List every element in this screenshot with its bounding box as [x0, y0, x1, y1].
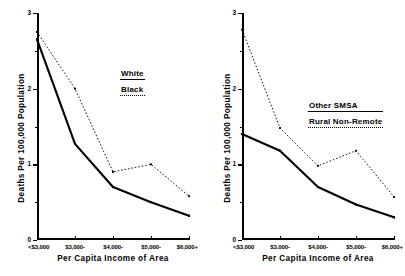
series-marker [355, 203, 357, 205]
x-tick [75, 236, 76, 240]
x-tick [242, 236, 243, 240]
series-layer-left [37, 13, 189, 240]
x-tick [356, 236, 357, 240]
x-tick-label: $3,000- [65, 244, 85, 250]
x-tick-label: $5,000- [346, 244, 366, 250]
series-marker [188, 215, 190, 217]
series-marker [74, 88, 76, 90]
y-minor-tick [35, 202, 38, 203]
series-marker [112, 186, 114, 188]
y-tick-1 [238, 164, 242, 165]
y-axis-title: Deaths Per 100,000 Population [17, 63, 26, 213]
legend-label-solid: White [120, 69, 145, 79]
legend-right: Other SMSA Rural Non-Remote [308, 101, 383, 133]
x-tick [151, 236, 152, 240]
y-tick-label-0: 0 [27, 237, 31, 244]
y-tick-1 [33, 164, 37, 165]
series-marker [112, 171, 114, 173]
legend-entry-dotted: Rural Non-Remote [308, 117, 383, 131]
two-panel-line-chart-figure: Deaths Per 100,000 Population Per Capita… [0, 0, 405, 276]
x-tick-label: $5,000- [141, 244, 161, 250]
series-marker [74, 143, 76, 145]
chart-panel-right: Deaths Per 100,000 Population Per Capita… [202, 0, 405, 276]
series-marker [393, 196, 395, 198]
x-axis-title: Per Capita Income of Area [242, 254, 394, 263]
y-minor-tick [240, 202, 243, 203]
x-tick-label: $4,000- [308, 244, 328, 250]
x-tick-label: $4,000- [103, 244, 123, 250]
legend-swatch-dotted-line [120, 95, 145, 96]
y-tick-label-3: 3 [27, 10, 31, 17]
x-tick-label: $6,000+ [382, 244, 403, 250]
x-tick-label: <$3,000 [28, 244, 49, 250]
legend-label-solid: Other SMSA [308, 101, 383, 111]
series-marker [150, 163, 152, 165]
series-marker [279, 127, 281, 129]
series-marker [279, 150, 281, 152]
plot-area-right: Per Capita Income of Area Other SMSA Rur… [242, 13, 394, 240]
series-marker [241, 133, 243, 135]
y-tick-label-2: 2 [232, 85, 236, 92]
y-tick-0 [33, 240, 37, 241]
legend-entry-dotted: Black [120, 85, 145, 99]
legend-swatch-solid-line [120, 79, 145, 80]
legend-label-dotted: Black [120, 85, 145, 95]
series-marker [36, 31, 38, 33]
x-tick [394, 236, 395, 240]
series-marker [393, 216, 395, 218]
series-marker [36, 38, 38, 40]
x-tick-label: $3,000- [270, 244, 290, 250]
y-tick-2 [33, 89, 37, 90]
y-tick-label-3: 3 [232, 10, 236, 17]
legend-swatch-solid-line [308, 111, 383, 112]
y-tick-label-2: 2 [27, 85, 31, 92]
x-tick [113, 236, 114, 240]
y-minor-tick [240, 51, 243, 52]
x-tick [280, 236, 281, 240]
chart-panel-left: Deaths Per 100,000 Population Per Capita… [0, 0, 202, 276]
legend-swatch-dotted-line [308, 127, 383, 128]
legend-entry-solid: White [120, 69, 145, 83]
y-minor-tick [240, 127, 243, 128]
plot-area-left: Per Capita Income of Area White Black 01… [37, 13, 189, 240]
y-tick-label-1: 1 [232, 161, 236, 168]
legend-label-dotted: Rural Non-Remote [308, 117, 383, 127]
x-tick-label: <$3,000 [233, 244, 254, 250]
x-axis-title: Per Capita Income of Area [37, 254, 189, 263]
series-marker [241, 29, 243, 31]
series-marker [355, 150, 357, 152]
series-marker [150, 201, 152, 203]
x-tick-label: $6,000+ [177, 244, 198, 250]
legend-left: White Black [120, 69, 145, 101]
y-tick-0 [238, 240, 242, 241]
y-tick-3 [33, 13, 37, 14]
y-minor-tick [35, 127, 38, 128]
series-marker [317, 186, 319, 188]
legend-entry-solid: Other SMSA [308, 101, 383, 115]
series-line-white [37, 39, 189, 215]
y-axis-title: Deaths Per 100,000 Population [223, 63, 232, 213]
y-tick-label-1: 1 [27, 161, 31, 168]
series-marker [188, 195, 190, 197]
series-line-other-smsa [242, 134, 394, 217]
x-tick [318, 236, 319, 240]
y-tick-label-0: 0 [232, 237, 236, 244]
x-tick [189, 236, 190, 240]
x-tick [37, 236, 38, 240]
y-minor-tick [35, 51, 38, 52]
y-tick-2 [238, 89, 242, 90]
y-tick-3 [238, 13, 242, 14]
series-marker [317, 165, 319, 167]
